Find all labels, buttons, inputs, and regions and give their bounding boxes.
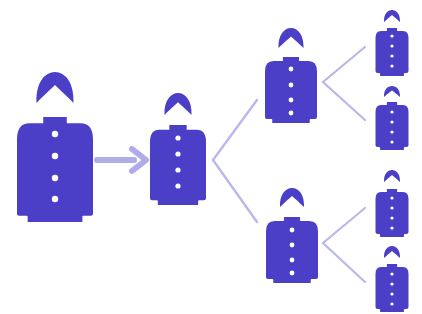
button-dot-icon [52,196,58,202]
button-dot-icon [175,167,180,172]
button-dot-icon [390,54,393,57]
button-dot-icon [289,83,294,88]
button-dot-icon [289,111,294,116]
branch-connector-line [323,208,365,282]
head-icon [280,188,304,207]
person-level2-top [265,28,317,123]
growth-arrow [97,149,146,171]
button-dot-icon [390,44,393,47]
person-level2-bottom [266,188,318,283]
button-dot-icon [175,135,180,140]
button-dot-icon [390,216,393,219]
button-dot-icon [290,271,295,276]
button-dot-icon [289,67,294,72]
button-dot-icon [390,272,393,275]
head-icon [384,86,400,97]
head-icon [384,170,400,182]
button-dot-icon [390,140,393,143]
button-dot-icon [390,292,393,295]
button-dot-icon [390,302,393,305]
button-dot-icon [175,151,180,156]
button-dot-icon [390,282,393,285]
button-dot-icon [289,98,294,103]
button-dot-icon [52,131,58,137]
button-dot-icon [290,258,295,263]
head-icon [36,72,73,103]
head-icon [278,28,303,48]
head-icon [384,10,400,22]
head-icon [164,93,191,115]
pyramid-diagram [0,0,422,314]
button-dot-icon [390,206,393,209]
button-dot-icon [290,243,295,248]
jacket-body-icon [376,189,409,237]
person-level1 [150,93,206,205]
head-icon [384,246,400,258]
button-dot-icon [290,228,295,233]
person-level3-a [376,10,409,76]
button-dot-icon [390,110,393,113]
button-dot-icon [390,64,393,67]
button-dot-icon [390,130,393,133]
button-dot-icon [390,34,393,37]
button-dot-icon [390,120,393,123]
button-dot-icon [175,183,180,188]
button-dot-icon [390,226,393,229]
branch-connector-line [323,47,365,120]
button-dot-icon [52,153,58,159]
person-level3-b [376,86,409,150]
person-root [17,72,93,222]
button-dot-icon [390,196,393,199]
branch-connector-line [213,100,257,222]
person-level3-d [376,246,409,312]
person-level3-c [376,170,409,237]
button-dot-icon [52,175,58,181]
